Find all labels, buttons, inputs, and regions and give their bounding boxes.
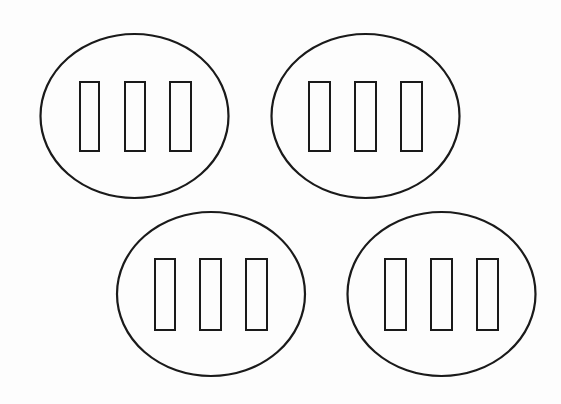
bar-rectangle <box>155 259 175 330</box>
oval <box>272 34 460 198</box>
bar-rectangle <box>385 259 406 330</box>
bar-rectangle <box>80 82 99 151</box>
bar-rectangle <box>401 82 422 151</box>
oval-group-4 <box>348 212 536 376</box>
bar-rectangle <box>200 259 221 330</box>
oval-group-3 <box>117 212 305 376</box>
bar-rectangle <box>309 82 330 151</box>
oval-group-2 <box>272 34 460 198</box>
bar-rectangle <box>355 82 376 151</box>
oval <box>41 34 229 198</box>
bar-rectangle <box>125 82 145 151</box>
oval <box>348 212 536 376</box>
bar-rectangle <box>246 259 267 330</box>
bar-rectangle <box>477 259 498 330</box>
diagram-canvas <box>0 0 561 404</box>
bar-rectangle <box>431 259 452 330</box>
bar-rectangle <box>170 82 191 151</box>
diagram-svg <box>0 0 561 404</box>
oval-group-1 <box>41 34 229 198</box>
oval <box>117 212 305 376</box>
